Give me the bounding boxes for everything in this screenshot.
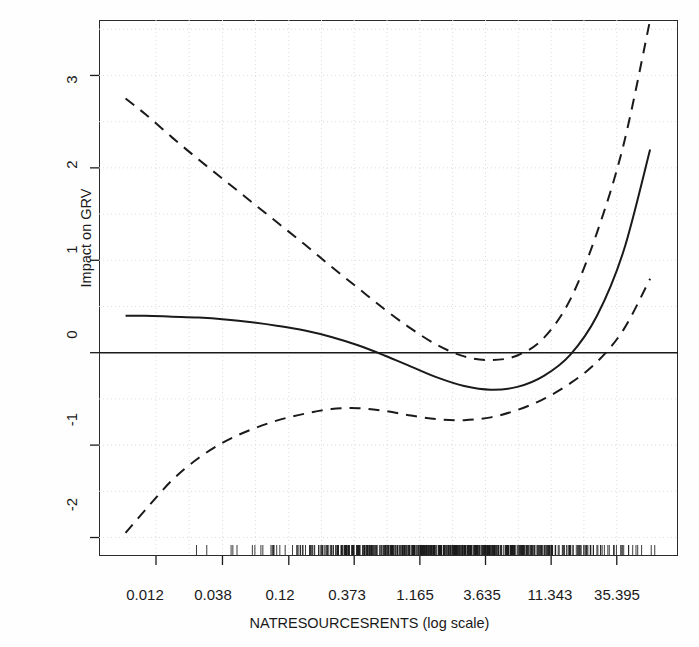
rug-marks — [197, 545, 655, 555]
impact-on-grv-plot: 3 2 1 0 -1 -2 Impact on GRV 0.012 0.038 … — [0, 0, 699, 647]
y-tick-neg1: -1 — [48, 411, 86, 429]
fitted-effect — [126, 149, 651, 389]
x-tick-35395: 35.395 — [577, 586, 657, 603]
y-tick-neg2: -2 — [48, 496, 86, 514]
series-curves — [126, 20, 651, 533]
x-axis-title: NATRESOURCESRENTS (log scale) — [0, 615, 699, 631]
gridlines — [99, 20, 678, 556]
axis-ticks — [90, 75, 617, 565]
lower-confidence-band — [126, 279, 651, 533]
y-tick-0: 0 — [48, 326, 86, 344]
x-axis-title-text: NATRESOURCESRENTS (log scale) — [210, 615, 490, 631]
y-axis-title: Impact on GRV — [78, 148, 94, 328]
y-tick-3: 3 — [48, 71, 86, 89]
upper-confidence-band — [126, 20, 651, 360]
plot-canvas — [0, 0, 699, 647]
